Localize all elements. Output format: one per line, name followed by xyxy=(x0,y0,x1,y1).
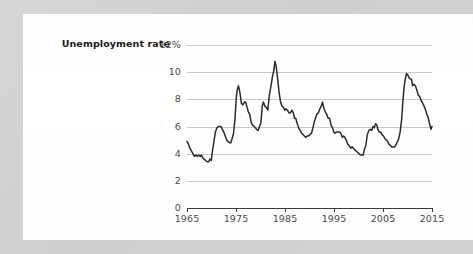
unemployment-rate-chart: Unemployment rate 024681012% 19651975198… xyxy=(0,0,473,254)
plot-area xyxy=(0,0,473,254)
screenshot-root: Unemployment rate 024681012% 19651975198… xyxy=(0,0,473,254)
unemployment-rate-line xyxy=(187,61,432,162)
